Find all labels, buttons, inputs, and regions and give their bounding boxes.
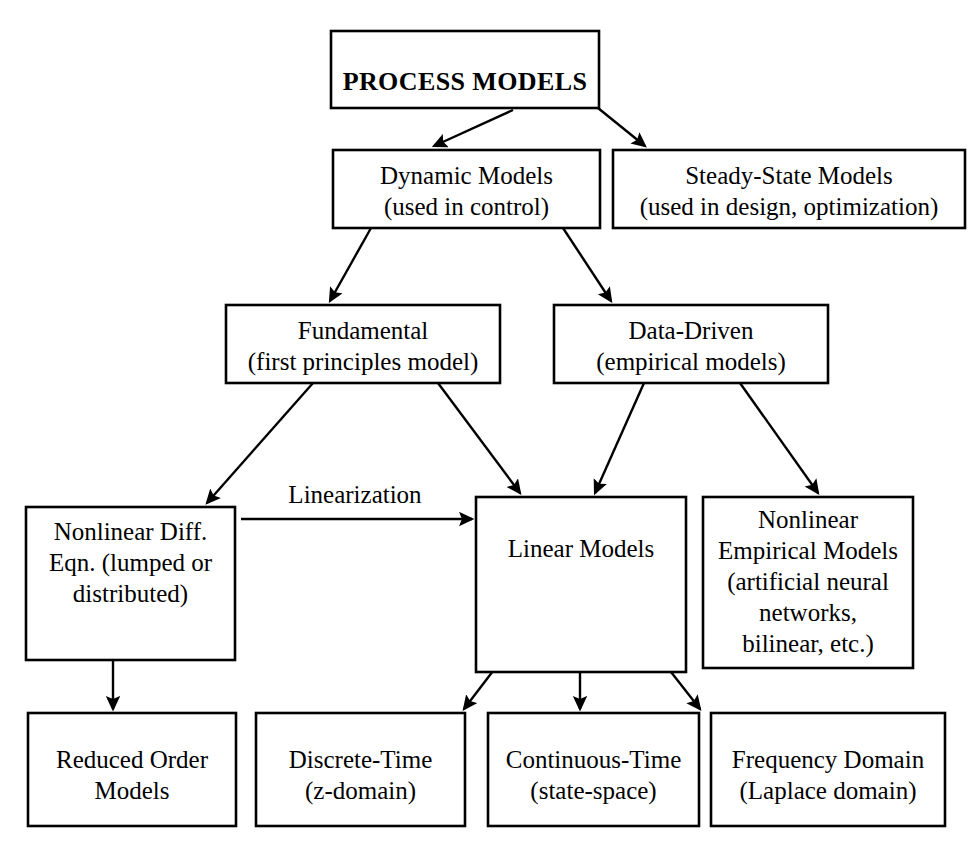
node-label-nonlinear-empirical-models: bilinear, etc.) [742, 630, 874, 658]
node-label-continuous-time: (state-space) [530, 777, 656, 805]
node-label-nonlinear-empirical-models: Empirical Models [718, 537, 898, 564]
node-label-process-models: PROCESS MODELS [343, 67, 588, 96]
node-label-fundamental: Fundamental [298, 317, 429, 344]
node-steady-state-models: Steady-State Models(used in design, opti… [613, 150, 965, 228]
node-nonlinear-empirical-models: NonlinearEmpirical Models(artificial neu… [703, 497, 913, 668]
node-label-fundamental: (first principles model) [248, 348, 479, 376]
node-label-nonlinear-empirical-models: networks, [759, 599, 857, 626]
node-label-data-driven: (empirical models) [596, 348, 786, 376]
node-continuous-time: Continuous-Time(state-space) [488, 713, 699, 826]
node-discrete-time: Discrete-Time(z-domain) [256, 713, 465, 826]
process-models-diagram: PROCESS MODELSDynamic Models(used in con… [0, 0, 976, 861]
node-label-linear-models: Linear Models [508, 535, 654, 562]
diagram-canvas: PROCESS MODELSDynamic Models(used in con… [0, 0, 976, 861]
node-label-discrete-time: Discrete-Time [289, 746, 433, 773]
node-label-nonlinear-empirical-models: (artificial neural [727, 568, 889, 596]
node-linear-models: Linear Models [476, 497, 686, 672]
connector-data-driven-to-nonlinear-empirical [740, 383, 818, 493]
node-label-reduced-order-models: Models [95, 777, 170, 804]
connector-process-to-dynamic [434, 110, 513, 146]
node-box-linear-models [476, 497, 686, 672]
connector-dynamic-to-data-driven [563, 228, 611, 301]
connector-data-driven-to-linear [595, 383, 644, 493]
node-label-nonlinear-diff-eqn: Eqn. (lumped or [49, 549, 213, 577]
node-layer: PROCESS MODELSDynamic Models(used in con… [26, 31, 965, 826]
node-label-nonlinear-diff-eqn: distributed) [73, 580, 188, 608]
node-label-steady-state-models: Steady-State Models [685, 162, 893, 189]
node-dynamic-models: Dynamic Models(used in control) [333, 150, 600, 228]
node-label-frequency-domain: (Laplace domain) [740, 777, 917, 805]
node-frequency-domain: Frequency Domain(Laplace domain) [711, 713, 945, 826]
node-nonlinear-diff-eqn: Nonlinear Diff.Eqn. (lumped ordistribute… [26, 507, 235, 660]
node-process-models: PROCESS MODELS [331, 31, 599, 108]
node-label-continuous-time: Continuous-Time [506, 746, 682, 773]
node-label-nonlinear-diff-eqn: Nonlinear Diff. [54, 518, 208, 545]
node-label-dynamic-models: Dynamic Models [380, 162, 553, 189]
connector-fundamental-to-linear [438, 383, 520, 493]
node-label-nonlinear-empirical-models: Nonlinear [758, 506, 859, 533]
node-label-frequency-domain: Frequency Domain [732, 746, 925, 773]
edge-label-layer: Linearization [288, 481, 422, 508]
node-label-reduced-order-models: Reduced Order [56, 746, 209, 773]
connector-process-to-steady-state [598, 108, 645, 146]
node-label-dynamic-models: (used in control) [384, 193, 549, 221]
node-fundamental: Fundamental(first principles model) [226, 305, 500, 383]
node-label-steady-state-models: (used in design, optimization) [640, 193, 939, 221]
node-label-data-driven: Data-Driven [629, 317, 754, 344]
edge-label-linearization-edge: Linearization [288, 481, 422, 508]
node-label-discrete-time: (z-domain) [305, 777, 416, 805]
connector-dynamic-to-fundamental [330, 228, 371, 301]
node-reduced-order-models: Reduced OrderModels [28, 713, 236, 826]
node-data-driven: Data-Driven(empirical models) [554, 305, 828, 383]
